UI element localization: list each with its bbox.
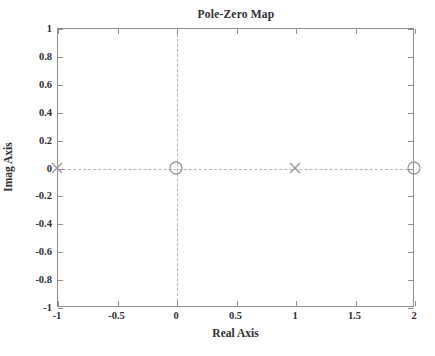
x-axis-tick <box>177 29 178 34</box>
y-axis-tick <box>58 169 63 170</box>
x-axis-tick <box>356 301 357 306</box>
x-axis-tick <box>415 301 416 306</box>
x-axis-tick-label: 2 <box>411 310 416 321</box>
x-axis-tick-label: 0.5 <box>229 310 242 321</box>
y-axis-tick <box>58 252 63 253</box>
x-axis-tick <box>177 301 178 306</box>
y-axis-tick <box>58 113 63 114</box>
y-axis-tick <box>58 224 63 225</box>
y-axis-tick-label: -0.4 <box>35 218 52 229</box>
y-axis-tick <box>408 57 413 58</box>
gridline-horizontal-zero <box>58 169 413 170</box>
y-axis-tick <box>408 29 413 30</box>
x-axis-tick <box>356 29 357 34</box>
x-axis-tick <box>296 301 297 306</box>
y-axis-tick-label: 0.4 <box>39 106 52 117</box>
pole-zero-map-figure: Pole-Zero Map -1-0.500.511.52 10.80.60.4… <box>0 0 435 356</box>
y-axis-tick <box>408 224 413 225</box>
y-axis-tick-label: 0.6 <box>39 78 52 89</box>
x-axis-tick-label: 0 <box>173 310 178 321</box>
x-axis-tick <box>296 29 297 34</box>
chart-title: Pole-Zero Map <box>57 8 415 20</box>
x-axis-label: Real Axis <box>57 327 414 339</box>
x-axis-tick <box>58 301 59 306</box>
y-axis-tick <box>408 252 413 253</box>
y-axis-tick <box>408 308 413 309</box>
y-axis-tick <box>58 308 63 309</box>
y-axis-tick <box>58 280 63 281</box>
y-axis-tick <box>58 29 63 30</box>
y-axis-tick <box>58 141 63 142</box>
gridline-vertical-zero <box>177 29 178 306</box>
y-axis-tick <box>58 57 63 58</box>
y-axis-tick <box>408 141 413 142</box>
x-axis-tick <box>237 29 238 34</box>
x-axis-tick <box>415 29 416 34</box>
y-axis-tick-label: 0.8 <box>39 50 52 61</box>
x-axis-tick <box>237 301 238 306</box>
x-axis-tick-label: 1 <box>292 310 297 321</box>
y-axis-tick-label: 0 <box>47 162 52 173</box>
y-axis-tick-label: -0.2 <box>35 190 52 201</box>
y-axis-label: Imag Axis <box>2 142 14 192</box>
y-axis-tick <box>408 113 413 114</box>
scan-artifact <box>0 346 435 356</box>
y-axis-tick <box>408 169 413 170</box>
y-axis-tick-label: 0.2 <box>39 134 52 145</box>
y-axis-tick-label: -1 <box>43 302 52 313</box>
plot-area <box>57 28 414 307</box>
x-axis-tick-label: -1 <box>53 310 62 321</box>
x-axis-tick-label: 1.5 <box>348 310 361 321</box>
y-axis-tick <box>408 196 413 197</box>
y-axis-tick <box>58 196 63 197</box>
y-axis-tick <box>58 85 63 86</box>
y-axis-tick-label: 1 <box>47 23 52 34</box>
x-axis-tick-label: -0.5 <box>108 310 125 321</box>
y-axis-tick <box>408 280 413 281</box>
x-axis-tick <box>118 301 119 306</box>
y-axis-tick-label: -0.6 <box>35 246 52 257</box>
y-axis-tick <box>408 85 413 86</box>
x-axis-tick <box>118 29 119 34</box>
y-axis-tick-label: -0.8 <box>35 274 52 285</box>
